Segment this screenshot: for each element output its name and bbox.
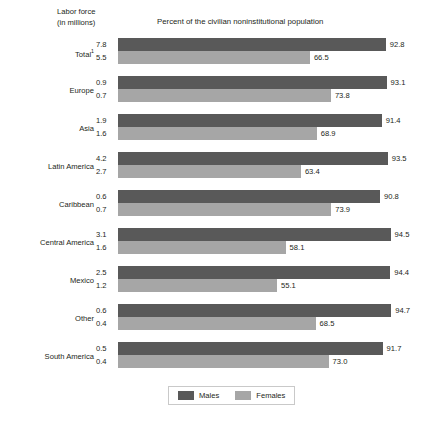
labor-force-males-value: 3.1 xyxy=(96,228,115,241)
chart-row-group: Latin America4.22.793.563.4 xyxy=(0,152,443,190)
bar-pair: 93.173.8 xyxy=(118,76,443,102)
category-label: South America xyxy=(0,352,94,361)
labor-force-values: 4.22.7 xyxy=(96,152,115,178)
bar-males xyxy=(118,76,387,89)
bar-females xyxy=(118,279,277,292)
legend-label-females: Females xyxy=(256,391,285,400)
bar-line-males: 91.4 xyxy=(118,114,443,127)
category-label: Central America xyxy=(0,238,94,247)
bar-pair: 94.768.5 xyxy=(118,304,443,330)
bar-pair: 91.773.0 xyxy=(118,342,443,368)
bar-females xyxy=(118,89,331,102)
labor-force-males-value: 1.9 xyxy=(96,114,115,127)
labor-force-females-value: 0.4 xyxy=(96,355,115,368)
labor-force-females-value: 0.4 xyxy=(96,317,115,330)
bar-females xyxy=(118,51,310,64)
legend-item-females: Females xyxy=(235,391,285,400)
labor-force-values: 7.85.5 xyxy=(96,38,115,64)
labor-force-title-line2: (in millions) xyxy=(57,18,117,29)
category-label: Mexico xyxy=(0,276,94,285)
labor-force-males-value: 2.5 xyxy=(96,266,115,279)
bar-males xyxy=(118,152,388,165)
bar-males xyxy=(118,38,386,51)
chart-row-group: Europe0.90.793.173.8 xyxy=(0,76,443,114)
bar-value-males: 93.1 xyxy=(387,76,406,89)
chart-row-group: Mexico2.51.294.455.1 xyxy=(0,266,443,304)
bar-males xyxy=(118,304,391,317)
bar-value-females: 58.1 xyxy=(286,241,305,254)
bar-value-males: 92.8 xyxy=(386,38,405,51)
labor-force-values: 0.60.7 xyxy=(96,190,115,216)
labor-force-axis-title: Labor force (in millions) xyxy=(57,7,117,28)
bar-pair: 90.873.9 xyxy=(118,190,443,216)
category-label: Total1 xyxy=(0,48,94,59)
bar-line-males: 93.5 xyxy=(118,152,443,165)
bar-line-females: 73.8 xyxy=(118,89,443,102)
bar-pair: 92.866.5 xyxy=(118,38,443,64)
bar-line-females: 63.4 xyxy=(118,165,443,178)
bar-value-males: 94.7 xyxy=(391,304,410,317)
chart-legend: Males Females xyxy=(168,386,295,405)
labor-force-values: 3.11.6 xyxy=(96,228,115,254)
bar-pair: 94.558.1 xyxy=(118,228,443,254)
labor-force-values: 0.50.4 xyxy=(96,342,115,368)
chart-row-group: Asia1.91.691.468.9 xyxy=(0,114,443,152)
labor-force-values: 2.51.2 xyxy=(96,266,115,292)
bar-value-males: 91.4 xyxy=(382,114,401,127)
labor-force-values: 0.60.4 xyxy=(96,304,115,330)
bar-line-males: 94.7 xyxy=(118,304,443,317)
category-label: Latin America xyxy=(0,162,94,171)
bar-value-females: 73.0 xyxy=(329,355,348,368)
bar-line-females: 58.1 xyxy=(118,241,443,254)
bar-line-females: 73.0 xyxy=(118,355,443,368)
legend-label-males: Males xyxy=(199,391,219,400)
bar-line-females: 73.9 xyxy=(118,203,443,216)
chart-header: Labor force (in millions) Percent of the… xyxy=(0,7,443,37)
labor-force-females-value: 5.5 xyxy=(96,51,115,64)
category-label: Other xyxy=(0,314,94,323)
bar-value-females: 66.5 xyxy=(310,51,329,64)
bar-value-males: 90.8 xyxy=(380,190,399,203)
labor-force-females-value: 0.7 xyxy=(96,89,115,102)
bar-value-males: 94.4 xyxy=(390,266,409,279)
bar-males xyxy=(118,266,390,279)
chart-row-group: Caribbean0.60.790.873.9 xyxy=(0,190,443,228)
category-label: Asia xyxy=(0,124,94,133)
bar-line-females: 55.1 xyxy=(118,279,443,292)
bar-males xyxy=(118,228,391,241)
labor-force-title-line1: Labor force xyxy=(57,7,117,18)
bar-line-females: 68.5 xyxy=(118,317,443,330)
bar-value-females: 73.8 xyxy=(331,89,350,102)
bar-females xyxy=(118,317,316,330)
labor-force-males-value: 0.6 xyxy=(96,190,115,203)
labor-force-values: 1.91.6 xyxy=(96,114,115,140)
labor-force-values: 0.90.7 xyxy=(96,76,115,102)
bar-value-males: 93.5 xyxy=(388,152,407,165)
bar-line-males: 93.1 xyxy=(118,76,443,89)
bar-females xyxy=(118,241,286,254)
chart-container: Labor force (in millions) Percent of the… xyxy=(0,0,443,422)
chart-row-group: Total17.85.592.866.5 xyxy=(0,38,443,76)
bar-line-females: 68.9 xyxy=(118,127,443,140)
bar-line-males: 92.8 xyxy=(118,38,443,51)
bar-line-females: 66.5 xyxy=(118,51,443,64)
chart-row-group: Central America3.11.694.558.1 xyxy=(0,228,443,266)
bar-males xyxy=(118,190,380,203)
bar-value-females: 63.4 xyxy=(301,165,320,178)
legend-item-males: Males xyxy=(178,391,219,400)
chart-row-group: South America0.50.491.773.0 xyxy=(0,342,443,380)
bar-line-males: 94.5 xyxy=(118,228,443,241)
labor-force-males-value: 0.5 xyxy=(96,342,115,355)
category-footnote-marker: 1 xyxy=(91,48,94,54)
category-label: Europe xyxy=(0,86,94,95)
labor-force-females-value: 0.7 xyxy=(96,203,115,216)
chart-row-group: Other0.60.494.768.5 xyxy=(0,304,443,342)
bar-females xyxy=(118,355,329,368)
bar-females xyxy=(118,127,317,140)
category-label: Caribbean xyxy=(0,200,94,209)
bar-females xyxy=(118,165,301,178)
bar-value-males: 94.5 xyxy=(391,228,410,241)
bar-line-males: 90.8 xyxy=(118,190,443,203)
bar-females xyxy=(118,203,331,216)
bar-value-males: 91.7 xyxy=(383,342,402,355)
